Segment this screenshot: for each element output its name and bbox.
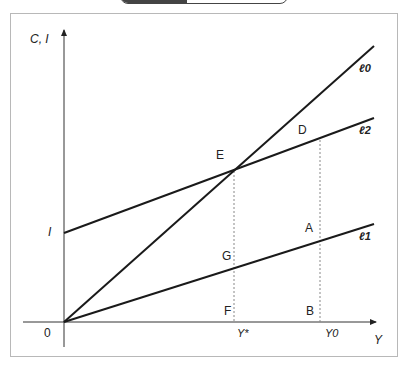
point-a-label: A (305, 222, 313, 234)
y-axis-label: C, I (30, 33, 49, 45)
point-g-label: G (222, 250, 231, 262)
x-tick-y-zero: Y0 (325, 328, 338, 339)
line-l0-label: ℓ0 (359, 63, 371, 74)
line-l0 (64, 46, 374, 322)
diagram-canvas (0, 0, 411, 372)
point-e-label: E (216, 149, 224, 161)
x-tick-y-star: Y* (237, 328, 249, 339)
x-axis-label: Y (374, 334, 382, 346)
line-l2-label: ℓ2 (359, 125, 371, 136)
point-f-label: F (224, 305, 231, 317)
line-l1 (64, 224, 374, 322)
intercept-label: I (48, 226, 51, 238)
point-b-label: B (306, 305, 314, 317)
line-l1-label: ℓ1 (359, 231, 371, 242)
origin-label: 0 (44, 327, 51, 339)
line-l2 (64, 118, 374, 233)
point-d-label: D (298, 124, 307, 136)
